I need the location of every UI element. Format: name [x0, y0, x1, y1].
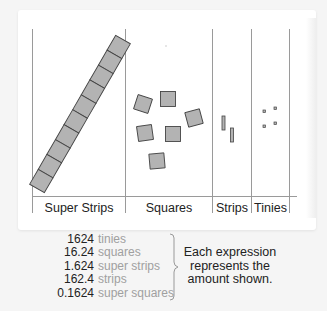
column-label-tinies: Tinies [252, 200, 289, 216]
super-strip [30, 35, 131, 192]
expression-value: 16.24 [50, 246, 94, 259]
expression-value: 0.1624 [50, 287, 94, 300]
square-piece [137, 125, 154, 142]
note-line: represents the [180, 260, 280, 274]
tiny-piece [274, 107, 277, 110]
place-value-diagram [0, 0, 327, 230]
square-piece [166, 127, 181, 142]
expression-unit: squares [98, 245, 141, 259]
tinies-group [263, 107, 277, 128]
figure: Super Strips Squares Strips Tinies 1624t… [0, 0, 327, 311]
column-label-super-strips: Super Strips [33, 200, 125, 216]
expression-value: 1624 [50, 233, 94, 246]
square-piece [149, 153, 165, 169]
expression-row: 1624tinies [50, 233, 170, 246]
expression-unit: super strips [98, 259, 160, 273]
expression-row: 1.624super strips [50, 260, 170, 273]
tiny-piece [263, 110, 266, 113]
squares-group [134, 92, 204, 170]
column-label-squares: Squares [126, 200, 212, 216]
tiny-piece [274, 122, 277, 125]
speck [165, 45, 166, 46]
column-label-strips: Strips [213, 200, 251, 216]
square-piece [134, 95, 153, 114]
expression-unit: super squares [98, 286, 174, 300]
square-piece [161, 92, 176, 107]
curly-brace-icon [168, 232, 180, 302]
strip-piece [231, 128, 234, 142]
expression-row: 16.24squares [50, 246, 170, 259]
strips-group [222, 116, 234, 142]
note-line: Each expression [180, 246, 280, 260]
expression-row: 0.1624super squares [50, 287, 170, 300]
explanation-note: Each expression represents the amount sh… [180, 246, 280, 287]
square-piece [185, 109, 203, 127]
strip-piece [222, 116, 225, 130]
expression-unit: tinies [98, 232, 126, 246]
note-line: amount shown. [180, 273, 280, 287]
expression-value: 162.4 [50, 273, 94, 286]
expression-row: 162.4strips [50, 273, 170, 286]
expression-unit: strips [98, 272, 127, 286]
expression-value: 1.624 [50, 260, 94, 273]
expression-list: 1624tinies 16.24squares 1.624super strip… [50, 233, 170, 300]
tiny-piece [263, 125, 266, 128]
